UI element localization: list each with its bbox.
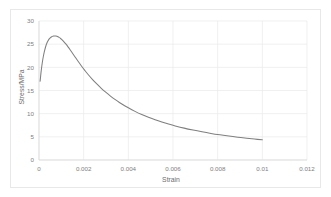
x-tick-label: 0.004: [121, 165, 137, 172]
series-layer: [40, 36, 262, 140]
y-tick-label: 20: [27, 64, 34, 71]
x-tick-label: 0.002: [76, 165, 92, 172]
y-tick-label: 5: [31, 133, 35, 140]
x-tick-label: 0.012: [299, 165, 315, 172]
y-tick-label: 0: [31, 156, 35, 163]
x-tick-labels: 00.0020.0040.0060.0080.010.012: [37, 165, 315, 172]
stress-strain-chart: 00.0020.0040.0060.0080.010.012 051015202…: [11, 10, 322, 189]
y-tick-labels: 051015202530: [27, 17, 34, 163]
chart-container: 00.0020.0040.0060.0080.010.012 051015202…: [10, 9, 321, 188]
y-tick-label: 25: [27, 40, 34, 47]
x-tick-label: 0.006: [165, 165, 181, 172]
x-axis-title: Strain: [162, 176, 180, 183]
x-tick-label: 0: [37, 165, 41, 172]
data-series-line: [40, 36, 262, 140]
y-tick-label: 15: [27, 87, 34, 94]
x-tick-label: 0.01: [256, 165, 269, 172]
x-tick-label: 0.008: [210, 165, 226, 172]
y-tick-label: 30: [27, 17, 34, 24]
y-axis-title: Stress/MPa: [18, 69, 25, 104]
y-tick-label: 10: [27, 110, 34, 117]
gridlines: [39, 21, 307, 160]
